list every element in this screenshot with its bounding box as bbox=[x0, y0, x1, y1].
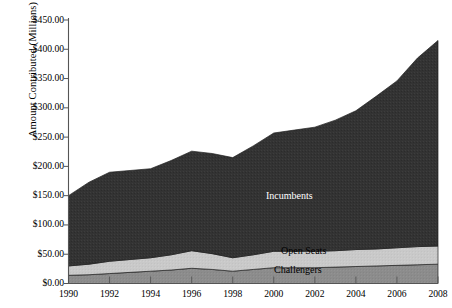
series-annotation-incumbents: Incumbents bbox=[266, 190, 313, 201]
series-annotation-challengers: Challengers bbox=[274, 264, 322, 275]
series-annotation-open-seats: Open Seats bbox=[281, 245, 326, 256]
